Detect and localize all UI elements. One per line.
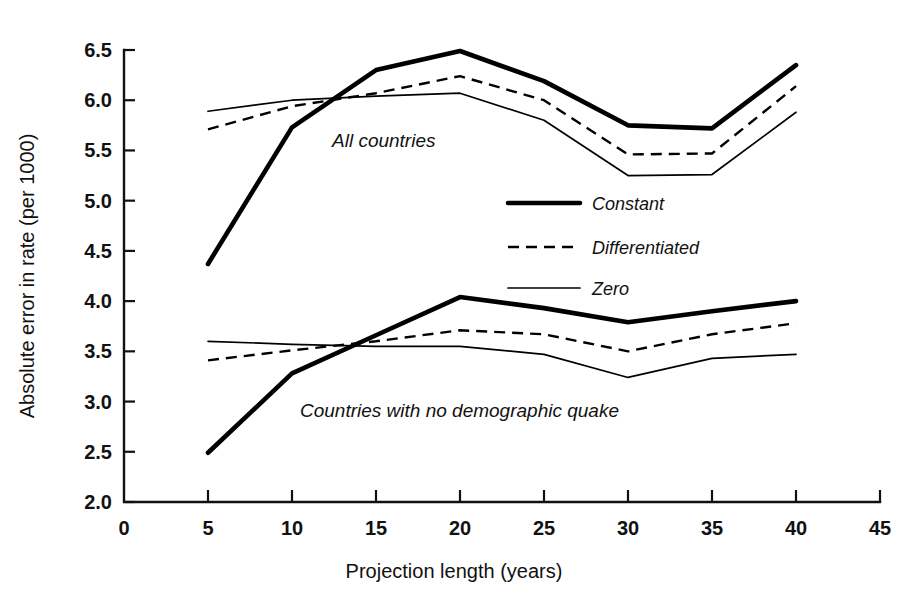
x-axis-ticks xyxy=(208,490,880,502)
x-tick-label: 45 xyxy=(869,517,891,539)
x-tick-label: 15 xyxy=(365,517,387,539)
y-tick-label: 2.5 xyxy=(84,441,112,463)
series-line-differentiated-group-2 xyxy=(208,323,796,360)
y-tick-label: 5.0 xyxy=(84,190,112,212)
x-tick-label: 25 xyxy=(533,517,555,539)
x-tick-label: 30 xyxy=(617,517,639,539)
series-lines xyxy=(208,51,796,453)
legend-label-constant: Constant xyxy=(592,194,665,214)
x-tick-label: 20 xyxy=(449,517,471,539)
x-tick-label: 0 xyxy=(118,517,129,539)
y-tick-label: 3.0 xyxy=(84,391,112,413)
y-tick-label: 3.5 xyxy=(84,340,112,362)
legend-label-zero: Zero xyxy=(591,279,629,299)
chart-figure: 2.02.53.03.54.04.55.05.56.06.5 051015202… xyxy=(0,0,908,606)
y-axis-title: Absolute error in rate (per 1000) xyxy=(16,134,38,419)
x-axis-title: Projection length (years) xyxy=(346,560,563,582)
axes: 2.02.53.03.54.04.55.05.56.06.5 051015202… xyxy=(84,39,891,539)
group-annotations: All countriesCountries with no demograph… xyxy=(300,130,619,421)
y-tick-label: 5.5 xyxy=(84,139,112,161)
x-tick-label: 5 xyxy=(202,517,213,539)
group-annotation-2: Countries with no demographic quake xyxy=(300,400,619,421)
y-tick-label: 6.0 xyxy=(84,89,112,111)
y-tick-label: 6.5 xyxy=(84,39,112,61)
legend-label-differentiated: Differentiated xyxy=(592,238,700,258)
y-tick-label: 4.5 xyxy=(84,240,112,262)
y-tick-label: 4.0 xyxy=(84,290,112,312)
y-tick-label: 2.0 xyxy=(84,491,112,513)
y-axis-tick-labels: 2.02.53.03.54.04.55.05.56.06.5 xyxy=(84,39,112,513)
series-line-constant-group-1 xyxy=(208,51,796,264)
series-line-constant-group-2 xyxy=(208,297,796,453)
chart-legend: ConstantDifferentiatedZero xyxy=(508,194,700,299)
x-tick-label: 10 xyxy=(281,517,303,539)
group-annotation-1: All countries xyxy=(331,130,436,151)
axis-frame xyxy=(124,50,880,502)
x-axis-tick-labels: 051015202530354045 xyxy=(118,517,891,539)
line-chart: 2.02.53.03.54.04.55.05.56.06.5 051015202… xyxy=(0,0,908,606)
x-tick-label: 35 xyxy=(701,517,723,539)
y-axis-ticks xyxy=(124,50,135,502)
series-line-differentiated-group-1 xyxy=(208,76,796,154)
x-tick-label: 40 xyxy=(785,517,807,539)
